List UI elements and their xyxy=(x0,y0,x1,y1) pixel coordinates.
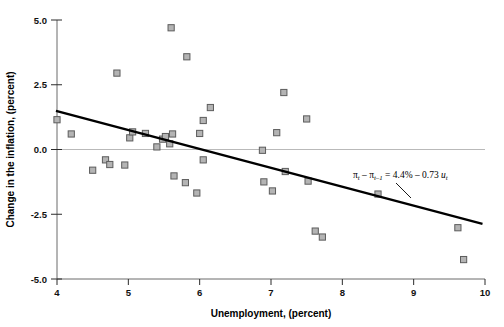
scatter-plot-svg: 5.0 2.5 0.0 -2.5 -5.0 4 5 6 7 8 9 10 Une… xyxy=(0,0,504,327)
data-point-marker xyxy=(194,190,200,196)
y-axis-title: Change in the inflation, (percent) xyxy=(5,71,16,227)
y-tick-label-neg5: -5.0 xyxy=(31,274,47,285)
data-point-marker xyxy=(182,180,188,186)
data-point-marker xyxy=(269,188,275,194)
data-point-marker xyxy=(122,162,128,168)
data-point-marker xyxy=(107,161,113,167)
data-point-marker xyxy=(281,89,287,95)
y-tick-label-5: 5.0 xyxy=(34,15,47,26)
x-tick-label-4: 4 xyxy=(54,287,60,298)
data-point-marker xyxy=(197,130,203,136)
data-point-marker xyxy=(154,144,160,150)
data-point-marker xyxy=(90,167,96,173)
data-point-marker xyxy=(200,157,206,163)
data-point-marker xyxy=(207,104,213,110)
data-point-marker xyxy=(171,173,177,179)
data-point-marker xyxy=(259,147,265,153)
data-point-marker xyxy=(319,234,325,240)
chart-figure: 5.0 2.5 0.0 -2.5 -5.0 4 5 6 7 8 9 10 Une… xyxy=(0,0,504,327)
data-point-marker xyxy=(261,179,267,185)
data-point-marker xyxy=(312,228,318,234)
data-point-marker xyxy=(274,130,280,136)
x-tick-label-6: 6 xyxy=(197,287,202,298)
eq-intercept: 4.4% xyxy=(393,170,413,180)
data-point-marker xyxy=(455,225,461,231)
data-point-marker xyxy=(200,117,206,123)
y-tick-label-2.5: 2.5 xyxy=(34,79,48,90)
x-tick-label-8: 8 xyxy=(340,287,345,298)
y-tick-label-neg2.5: -2.5 xyxy=(31,209,48,220)
x-axis-title: Unemployment, (percent) xyxy=(211,308,332,319)
data-point-marker xyxy=(68,131,74,137)
x-tick-label-9: 9 xyxy=(411,287,416,298)
data-point-marker xyxy=(54,117,60,123)
data-point-marker xyxy=(114,70,120,76)
data-point-marker xyxy=(184,54,190,60)
x-tick-label-5: 5 xyxy=(126,287,132,298)
x-tick-label-7: 7 xyxy=(268,287,273,298)
data-point-marker xyxy=(169,131,175,137)
regression-equation-annotation: πt – πt–1 = 4.4% – 0.73 ut xyxy=(353,170,449,181)
data-point-marker xyxy=(304,116,310,122)
data-point-marker xyxy=(127,135,133,141)
x-tick-label-10: 10 xyxy=(480,287,491,298)
eq-sub-t-minus-1: t–1 xyxy=(374,174,383,181)
data-point-marker xyxy=(461,256,467,262)
data-point-marker xyxy=(168,25,174,31)
eq-slope: 0.73 xyxy=(422,170,439,180)
y-tick-label-0: 0.0 xyxy=(34,144,47,155)
